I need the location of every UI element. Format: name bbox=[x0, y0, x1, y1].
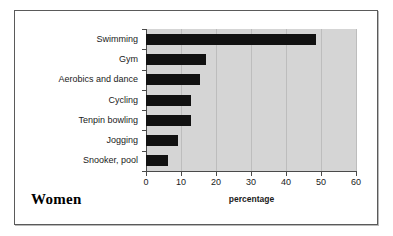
x-axis-tick bbox=[146, 172, 147, 176]
y-axis-tick bbox=[142, 70, 146, 71]
y-axis-tick bbox=[142, 49, 146, 50]
x-axis-tick-label: 40 bbox=[274, 177, 298, 187]
y-axis-tick bbox=[142, 151, 146, 152]
gridline bbox=[321, 29, 322, 171]
gridline bbox=[286, 29, 287, 171]
x-axis-tick-label: 50 bbox=[309, 177, 333, 187]
y-axis-tick bbox=[142, 130, 146, 131]
gridline bbox=[356, 29, 357, 171]
bar bbox=[146, 135, 178, 146]
x-axis-tick bbox=[321, 172, 322, 176]
x-axis-tick-label: 10 bbox=[169, 177, 193, 187]
category-label: Gym bbox=[15, 54, 142, 65]
x-axis-tick bbox=[251, 172, 252, 176]
y-axis-tick bbox=[142, 29, 146, 30]
panel-title: Women bbox=[31, 191, 82, 208]
category-label: Aerobics and dance bbox=[15, 74, 142, 85]
category-label: Cycling bbox=[15, 95, 142, 106]
category-label: Jogging bbox=[15, 135, 142, 146]
category-label: Tenpin bowling bbox=[15, 115, 142, 126]
x-axis-tick bbox=[286, 172, 287, 176]
bar bbox=[146, 54, 206, 65]
x-axis-tick bbox=[216, 172, 217, 176]
y-axis-tick bbox=[142, 90, 146, 91]
y-axis-tick bbox=[142, 110, 146, 111]
bar bbox=[146, 34, 316, 45]
gridline bbox=[251, 29, 252, 171]
gridline bbox=[216, 29, 217, 171]
x-axis-tick bbox=[356, 172, 357, 176]
x-axis-tick-label: 60 bbox=[344, 177, 368, 187]
category-label: Swimming bbox=[15, 34, 142, 45]
x-axis-title: percentage bbox=[146, 194, 357, 204]
bar bbox=[146, 74, 200, 85]
x-axis-tick-label: 20 bbox=[204, 177, 228, 187]
x-axis-tick bbox=[181, 172, 182, 176]
bar bbox=[146, 155, 168, 166]
chart-panel: SwimmingGymAerobics and danceCyclingTenp… bbox=[14, 10, 378, 225]
bar bbox=[146, 115, 191, 126]
category-label: Snooker, pool bbox=[15, 155, 142, 166]
x-axis-tick-label: 0 bbox=[134, 177, 158, 187]
x-axis-tick-label: 30 bbox=[239, 177, 263, 187]
bar bbox=[146, 95, 191, 106]
